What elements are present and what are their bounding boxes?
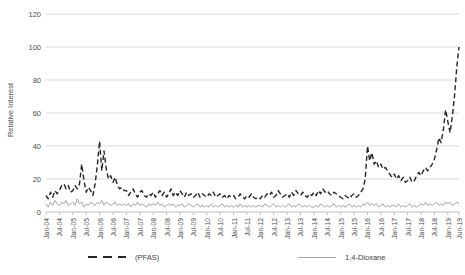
dioxane-line-sample <box>298 257 336 258</box>
y-axis-title: Relative Interest <box>6 50 18 170</box>
x-tick-label: Jan-17 <box>391 218 398 239</box>
y-tick-label: 20 <box>33 175 41 184</box>
x-tick-label: Jul-09 <box>190 218 197 237</box>
x-tick-label: Jul-16 <box>378 218 385 237</box>
y-tick-label: 0 <box>37 208 41 217</box>
legend-label-pfas: (PFAS) <box>135 253 159 262</box>
x-tick-label: Jan-08 <box>150 218 157 239</box>
y-tick-label: 100 <box>28 43 41 52</box>
y-tick-label: 80 <box>33 76 41 85</box>
x-tick-label: Jan-13 <box>284 218 291 239</box>
x-tick-label: Jul-14 <box>324 218 331 237</box>
x-tick-label: Jan-06 <box>97 218 104 239</box>
x-tick-label: Jan-14 <box>311 218 318 239</box>
x-tick-label: Jan-10 <box>204 218 211 239</box>
x-tick-label: Jan-18 <box>418 218 425 239</box>
x-tick-label: Jul-08 <box>164 218 171 237</box>
y-tick-label: 40 <box>33 142 41 151</box>
legend-label-dioxane: 1,4-Dioxane <box>345 253 385 262</box>
relative-interest-chart: 020406080100120Jan-04Jul-04Jan-05Jul-05J… <box>0 0 465 275</box>
x-tick-label: Jan-05 <box>70 218 77 239</box>
x-tick-label: Jan-19 <box>445 218 452 239</box>
pfas-line-sample <box>88 256 126 258</box>
x-tick-label: Jul-15 <box>351 218 358 237</box>
chart-plot-area: 020406080100120Jan-04Jul-04Jan-05Jul-05J… <box>0 0 465 248</box>
x-tick-label: Jan-11 <box>231 218 238 238</box>
x-tick-label: Jul-18 <box>431 218 438 237</box>
x-tick-label: Jul-05 <box>83 218 90 237</box>
dioxane-series-line <box>46 199 459 207</box>
legend-item-pfas: (PFAS) <box>88 252 159 262</box>
x-tick-label: Jan-15 <box>338 218 345 239</box>
x-tick-label: Jan-16 <box>364 218 371 239</box>
legend-item-dioxane: 1,4-Dioxane <box>298 252 385 262</box>
x-tick-label: Jan-12 <box>257 218 264 239</box>
x-tick-label: Jan-09 <box>177 218 184 239</box>
x-tick-label: Jan-04 <box>43 218 50 239</box>
x-tick-label: Jul-06 <box>110 218 117 237</box>
x-tick-label: Jul-07 <box>137 218 144 237</box>
x-tick-label: Jan-07 <box>123 218 130 239</box>
x-tick-label: Jul-13 <box>297 218 304 237</box>
y-tick-label: 120 <box>28 10 41 19</box>
pfas-series-line <box>46 47 459 199</box>
y-tick-label: 60 <box>33 109 41 118</box>
x-tick-label: Jul-04 <box>56 218 63 237</box>
x-tick-label: Jul-17 <box>405 218 412 237</box>
x-tick-label: Jul-11 <box>244 218 251 236</box>
x-tick-label: Jul-10 <box>217 218 224 237</box>
x-tick-label: Jul-12 <box>271 218 278 237</box>
x-tick-label: Jun-19 <box>456 218 463 239</box>
